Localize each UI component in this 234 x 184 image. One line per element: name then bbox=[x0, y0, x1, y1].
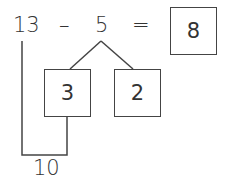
make-ten-label: 10 bbox=[33, 157, 60, 179]
part-box-left: 3 bbox=[44, 69, 91, 117]
part-number-right: 2 bbox=[131, 82, 144, 104]
part-number-left: 3 bbox=[61, 82, 74, 104]
result-number: 8 bbox=[187, 20, 200, 42]
branch-left-line bbox=[70, 41, 101, 69]
branch-right-line bbox=[101, 41, 133, 69]
minuend-number: 13 bbox=[13, 14, 40, 36]
result-box: 8 bbox=[170, 7, 217, 55]
subtrahend-number: 5 bbox=[95, 14, 108, 36]
equals-sign: = bbox=[132, 14, 150, 36]
part-box-right: 2 bbox=[114, 69, 161, 117]
minus-sign: – bbox=[59, 14, 70, 36]
